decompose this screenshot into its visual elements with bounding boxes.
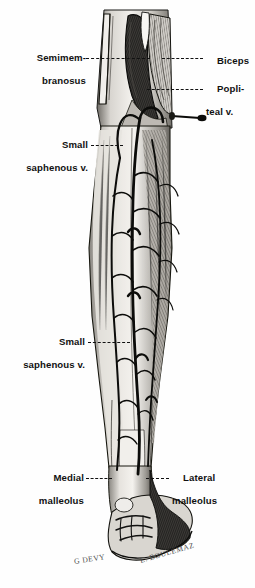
- label-lateral-malleolus-line1: Lateral: [183, 472, 215, 483]
- leader-medial-malleolus: [86, 478, 112, 479]
- label-biceps-line1: Biceps: [217, 55, 249, 66]
- leader-small-saphenous-lower: [88, 342, 130, 343]
- calf-region: [89, 126, 173, 486]
- label-semimembranosus-line1: Semimem-: [37, 52, 86, 63]
- label-medial-malleolus-line2: malleolus: [14, 495, 84, 506]
- label-lateral-malleolus-line2: malleolus: [172, 495, 252, 506]
- label-medial-malleolus: Medial malleolus: [14, 461, 84, 529]
- leader-semimembranosus: [86, 58, 150, 59]
- label-popliteal-vein: Popli- teal v.: [206, 72, 254, 140]
- label-lateral-malleolus: Lateral malleolus: [172, 461, 252, 529]
- leader-lateral-malleolus: [146, 478, 169, 479]
- label-semimembranosus-line2: branosus: [12, 75, 86, 86]
- leader-biceps: [162, 58, 203, 59]
- label-small-saphenous-lower-line1: Small: [59, 336, 85, 347]
- label-small-saphenous-upper: Small saphenous v.: [8, 128, 88, 196]
- surgical-probe: [169, 112, 207, 121]
- leader-small-saphenous-upper: [91, 145, 123, 146]
- anatomical-plate: Semimem- branosus Biceps Popli- teal v. …: [0, 0, 255, 588]
- label-small-saphenous-lower: Small saphenous v.: [5, 325, 85, 393]
- label-small-saphenous-upper-line2: saphenous v.: [8, 162, 88, 173]
- label-popliteal-vein-line2: teal v.: [206, 106, 254, 117]
- label-semimembranosus: Semimem- branosus: [12, 41, 86, 109]
- label-popliteal-vein-line1: Popli-: [217, 83, 244, 94]
- label-small-saphenous-upper-line1: Small: [62, 139, 88, 150]
- leader-popliteal-vein: [147, 89, 203, 90]
- label-medial-malleolus-line1: Medial: [54, 472, 84, 483]
- label-small-saphenous-lower-line2: saphenous v.: [5, 359, 85, 370]
